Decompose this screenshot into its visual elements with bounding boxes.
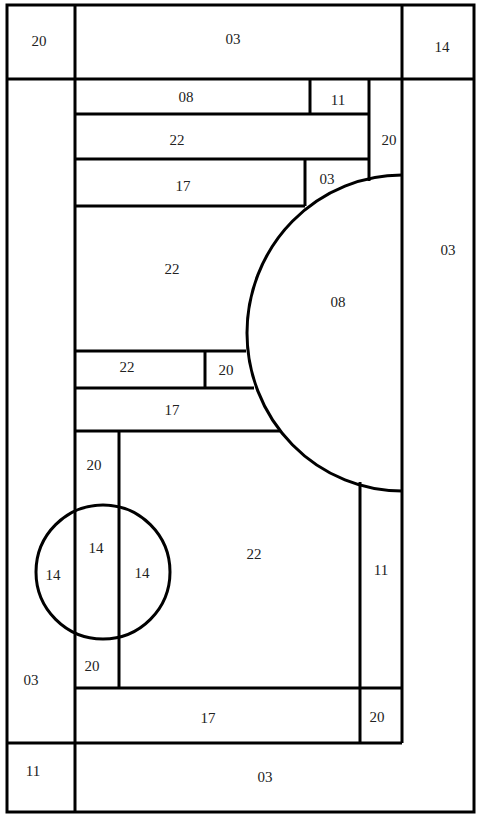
- label-top-right: 14: [435, 39, 451, 55]
- label-narrow-col-bottom: 20: [85, 658, 100, 674]
- label-row2: 22: [170, 132, 185, 148]
- label-right-narrow-col: 11: [374, 562, 388, 578]
- half-circle: [247, 175, 402, 491]
- label-right-column: 03: [441, 242, 456, 258]
- label-circle-right: 14: [135, 565, 151, 581]
- label-row3-left: 17: [176, 178, 192, 194]
- label-top-left: 20: [32, 33, 47, 49]
- label-row5: 17: [165, 402, 181, 418]
- label-bottom-center: 03: [258, 769, 273, 785]
- label-row3-right: 03: [320, 171, 335, 187]
- label-circle-center: 14: [89, 540, 105, 556]
- label-left-column: 03: [24, 672, 39, 688]
- label-col-right-upper: 20: [382, 132, 397, 148]
- label-circle-left: 14: [46, 567, 62, 583]
- label-bottom-row-right: 20: [370, 709, 385, 725]
- label-top-center: 03: [226, 31, 241, 47]
- outer-frame: [7, 5, 474, 812]
- label-center-big: 22: [247, 546, 262, 562]
- label-row1-right: 11: [331, 92, 345, 108]
- label-row1-left: 08: [179, 89, 194, 105]
- label-row4-left: 22: [120, 359, 135, 375]
- label-row4-right: 20: [219, 362, 234, 378]
- label-half-circle: 08: [331, 294, 346, 310]
- label-bottom-row: 17: [201, 710, 217, 726]
- label-bottom-left: 11: [26, 763, 40, 779]
- label-narrow-col-top: 20: [87, 457, 102, 473]
- label-mid-left-big: 22: [165, 261, 180, 277]
- region-diagram: 20 03 14 08 11 22 20 17 03 03 08 22 22 2…: [0, 0, 483, 822]
